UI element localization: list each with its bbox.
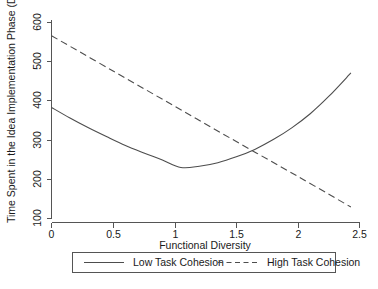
- y-axis-title-group: Time Spent in the Idea Implementation Ph…: [5, 0, 17, 223]
- x-tick-label-0.5: 0.5: [106, 228, 121, 240]
- y-axis: 600 500 400 300 200 100: [31, 13, 52, 227]
- legend-label-low-task-cohesion: Low Task Cohesion: [133, 256, 224, 268]
- series-line-high-task-cohesion: [52, 36, 351, 207]
- y-tick-label-500: 500: [31, 52, 43, 70]
- series-group: [52, 36, 351, 207]
- x-tick-label-2: 2: [296, 228, 302, 240]
- y-tick-label-600: 600: [31, 13, 43, 31]
- y-tick-label-100: 100: [31, 209, 43, 227]
- chart-legend: Low Task Cohesion High Task Cohesion: [73, 253, 361, 273]
- line-chart-canvas: Time Spent in the Idea Implementation Ph…: [0, 0, 378, 289]
- y-tick-label-400: 400: [31, 91, 43, 109]
- y-tick-label-300: 300: [31, 131, 43, 149]
- y-axis-title: Time Spent in the Idea Implementation Ph…: [5, 0, 17, 223]
- x-axis: 0 0.5 1 1.5 2 2.5 Functional Diversity: [49, 223, 367, 252]
- legend-label-high-task-cohesion: High Task Cohesion: [267, 256, 360, 268]
- x-axis-title: Functional Diversity: [159, 239, 251, 251]
- x-tick-label-0: 0: [49, 228, 55, 240]
- chart-figure: Time Spent in the Idea Implementation Ph…: [0, 0, 378, 289]
- series-line-low-task-cohesion: [52, 73, 351, 168]
- y-tick-label-200: 200: [31, 170, 43, 188]
- x-tick-label-2.5: 2.5: [352, 228, 367, 240]
